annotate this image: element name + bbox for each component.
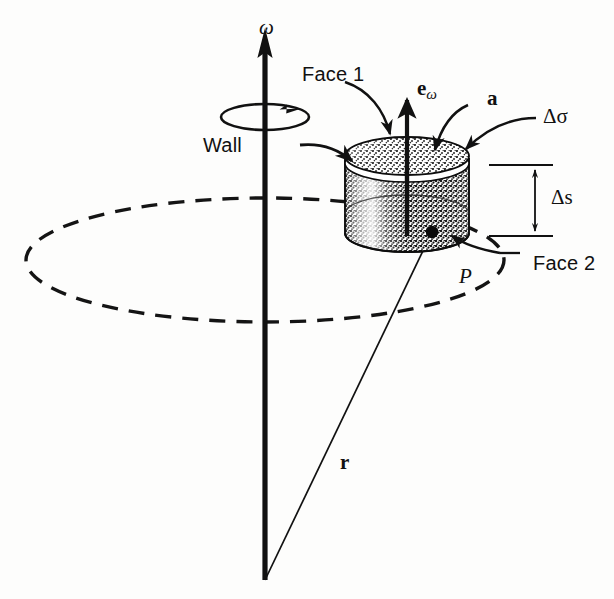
radius-vector-line-icon: [265, 232, 432, 580]
delta-s-label: Δs: [551, 187, 573, 208]
e-omega-subscript: ω: [426, 86, 437, 102]
point-p-label: P: [459, 266, 472, 287]
face-2-label: Face 2: [533, 253, 595, 273]
delta-s-dimension: [489, 165, 553, 236]
delta-sigma-label: Δσ: [543, 106, 568, 127]
omega-axis-label: ω: [259, 17, 274, 38]
figure-canvas: [0, 0, 614, 599]
face-1-label: Face 1: [302, 64, 364, 84]
e-omega-label: eω: [417, 78, 437, 102]
delta-sigma-leader-arrow: [466, 118, 536, 149]
radius-vector-label: r: [340, 452, 349, 473]
rotation-axis-arrow-icon: [257, 28, 272, 580]
a-vector-label: a: [487, 88, 498, 109]
point-marker-icon: [426, 226, 438, 238]
e-omega-base: e: [417, 76, 426, 100]
rotating-wall-figure: ω Face 1 Wall eω a Δσ Δs Face 2 P r: [0, 0, 614, 599]
face-1-leader-arrow: [345, 82, 390, 134]
wall-label: Wall: [203, 135, 242, 155]
